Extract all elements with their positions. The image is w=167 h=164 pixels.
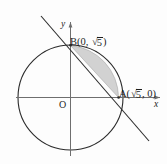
point-b-label-prefix: B(0, xyxy=(70,36,91,47)
point-b-label: B(0, √5) xyxy=(70,36,107,48)
sqrt-icon-a: √5 xyxy=(130,88,142,100)
geometry-figure: B(0, √5) A(√5, 0) O y x xyxy=(0,0,167,164)
point-a-label-prefix: A( xyxy=(119,88,130,99)
point-a-label-suffix: , 0) xyxy=(142,88,156,99)
origin-label: O xyxy=(59,100,66,110)
x-axis-label: x xyxy=(154,100,158,110)
point-a-radicand: 5 xyxy=(136,89,142,101)
y-axis-label: y xyxy=(61,20,65,30)
line-through-a-and-b xyxy=(41,16,149,141)
point-b-label-suffix: ) xyxy=(103,36,107,47)
shaded-circular-segment xyxy=(71,46,119,98)
y-axis-arrow-icon xyxy=(69,22,73,28)
point-b-radicand: 5 xyxy=(97,37,103,49)
sqrt-icon-b: √5 xyxy=(91,36,103,48)
point-a-label: A(√5, 0) xyxy=(119,88,156,100)
figure-canvas xyxy=(0,0,167,164)
